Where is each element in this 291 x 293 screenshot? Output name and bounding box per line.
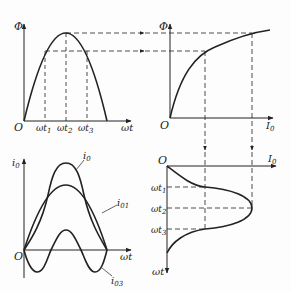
tick-t3: ωt3 (151, 225, 167, 237)
origin-label: O (158, 154, 167, 167)
panel-current-vs-time-rotated: O I0 ωt1 ωt2 ωt3 ωt (151, 152, 277, 277)
third-harmonic-curve (24, 230, 107, 272)
leader-i0 (76, 160, 84, 170)
label-i01: i01 (117, 197, 129, 210)
flux-curve (24, 33, 107, 121)
origin-label: O (14, 250, 23, 263)
label-i0: i0 (83, 150, 91, 163)
fundamental-current-curve (24, 185, 107, 250)
y-axis-label: Φ (14, 20, 23, 33)
origin-label: O (160, 119, 169, 132)
tick-t3: ωt3 (78, 123, 94, 135)
tick-t2: ωt2 (151, 204, 167, 216)
y-axis-label: ωt (152, 266, 165, 277)
panel-current-harmonics: i0 O ωt i0 i01 i03 (12, 150, 133, 288)
x-axis-label: ωt (120, 251, 133, 262)
x-axis-label: I0 (265, 120, 275, 133)
x-axis-label: ωt (121, 122, 134, 133)
tick-t1: ωt1 (36, 123, 51, 135)
x-axis-label: I0 (267, 153, 277, 166)
label-i03: i03 (111, 275, 124, 288)
panel-flux-vs-time: Φ O ωt ωt1 ωt2 ωt3 (14, 20, 144, 135)
origin-label: O (14, 121, 23, 134)
magnetization-curve (170, 30, 270, 118)
tick-t2: ωt2 (57, 123, 73, 135)
magnetizing-current-curve (24, 163, 107, 250)
panel-flux-vs-current: Φ O I0 (145, 20, 275, 150)
current-curve (167, 166, 252, 253)
y-axis-label: Φ (159, 20, 168, 33)
magnetizing-current-diagram: Φ O ωt ωt1 ωt2 ωt3 Φ O I0 O I0 ωt1 ωt2 ω… (0, 0, 291, 293)
leader-i01 (102, 205, 117, 213)
diagram-canvas: Φ O ωt ωt1 ωt2 ωt3 Φ O I0 O I0 ωt1 ωt2 ω… (0, 0, 291, 293)
y-axis-label: i0 (12, 157, 20, 170)
tick-t1: ωt1 (151, 183, 166, 195)
